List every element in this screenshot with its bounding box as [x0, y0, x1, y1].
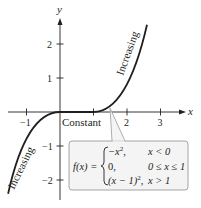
x-tick-label: −1: [20, 117, 31, 128]
case-3-condition: x > 1: [147, 175, 170, 186]
case-2-condition: 0 ≤ x ≤ 1: [148, 161, 185, 172]
x-axis-arrow-icon: [179, 110, 186, 115]
function-name: f(x) =: [73, 161, 97, 173]
case-2: 0,: [108, 161, 116, 172]
y-tick-label: −1: [42, 141, 53, 152]
case-1-condition: x < 0: [147, 146, 171, 157]
piecewise-function-graph: x y −1 2 3 2 1 −1 −2 Increasing Constant…: [0, 0, 201, 208]
y-tick-label: 2: [47, 39, 52, 50]
y-tick-label: −2: [42, 175, 53, 186]
x-tick-label: 3: [158, 117, 163, 128]
x-axis-label: x: [187, 105, 193, 117]
y-axis-arrow-icon: [58, 18, 63, 25]
case-1: −x2,: [108, 145, 126, 157]
x-tick-label: 2: [124, 117, 129, 128]
constant-label: Constant: [62, 116, 101, 128]
increasing-label-right: Increasing: [114, 29, 141, 77]
callout-pointer: [110, 108, 125, 141]
y-tick-label: 1: [47, 73, 52, 84]
y-axis-label: y: [56, 3, 62, 15]
